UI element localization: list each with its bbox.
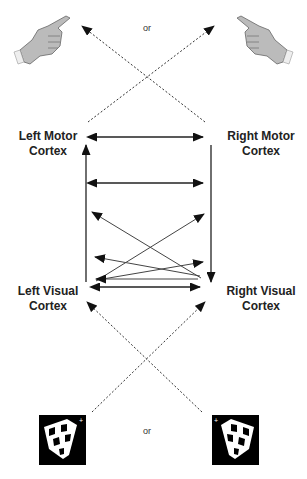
checkerboard-wedge-left-icon: + (39, 415, 86, 465)
or-text-top: or (143, 23, 151, 33)
motor-output-arrows (82, 26, 214, 122)
label-line: Cortex (220, 299, 302, 314)
right-motor-cortex-label: Right Motor Cortex (220, 129, 302, 159)
right-visual-cortex-label: Right Visual Cortex (220, 284, 302, 314)
left-visual-cortex-label: Left Visual Cortex (8, 284, 88, 314)
checkerboard-wedge-right-icon: + (212, 415, 259, 465)
svg-text:+: + (214, 417, 218, 424)
label-line: Right Visual (220, 284, 302, 299)
left-pointing-hand-icon (14, 16, 70, 64)
label-line: Cortex (8, 299, 88, 314)
cross-arrows (92, 212, 204, 281)
svg-text:+: + (79, 417, 83, 424)
visual-input-arrows (87, 302, 205, 412)
visual-to-motor-arrows (86, 145, 211, 282)
label-line: Left Visual (8, 284, 88, 299)
left-motor-cortex-label: Left Motor Cortex (8, 129, 88, 159)
right-pointing-hand-icon (237, 16, 293, 64)
label-line: Right Motor (220, 129, 302, 144)
label-line: Cortex (8, 144, 88, 159)
label-line: Left Motor (8, 129, 88, 144)
or-text-bottom: or (143, 426, 151, 436)
label-line: Cortex (220, 144, 302, 159)
connectivity-diagram: + + (0, 0, 307, 479)
